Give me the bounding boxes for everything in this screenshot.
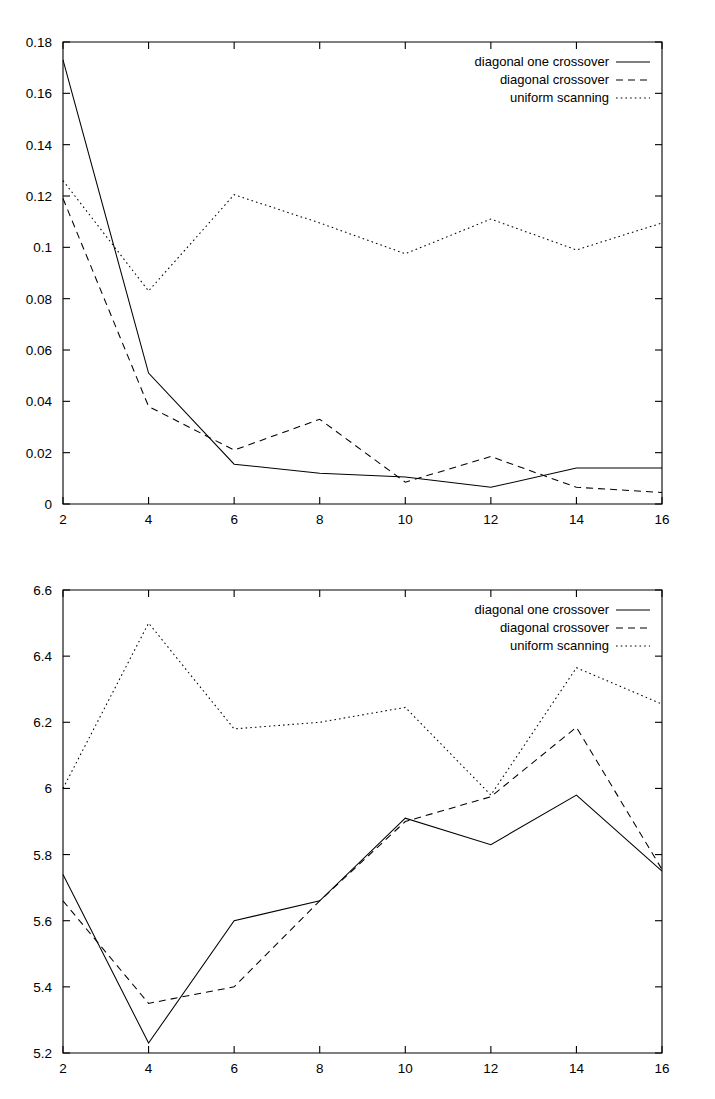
series-line-solid [63, 795, 662, 1043]
line-chart-bottom: 5.25.45.65.866.26.46.6246810121416diagon… [0, 550, 715, 1099]
y-tick-label: 0.12 [26, 189, 52, 204]
x-tick-label: 4 [145, 1061, 153, 1076]
plot-frame [63, 590, 662, 1053]
legend-label: uniform scanning [510, 638, 609, 653]
x-tick-label: 2 [59, 1061, 67, 1076]
y-tick-label: 0.1 [33, 240, 52, 255]
y-tick-label: 0.14 [26, 138, 53, 153]
x-tick-label: 14 [569, 512, 585, 527]
x-tick-label: 16 [654, 1061, 669, 1076]
legend-label: diagonal one crossover [475, 54, 610, 69]
y-tick-label: 5.4 [33, 980, 52, 995]
series-line-dashed [63, 727, 662, 1003]
x-tick-label: 10 [398, 1061, 413, 1076]
x-tick-label: 16 [654, 512, 669, 527]
y-tick-label: 5.6 [33, 914, 52, 929]
legend-label: diagonal one crossover [475, 602, 610, 617]
y-tick-label: 0.06 [26, 343, 52, 358]
y-tick-label: 6.4 [33, 649, 52, 664]
y-tick-label: 0.08 [26, 292, 52, 307]
plot-frame [63, 42, 662, 504]
chart-page: 00.020.040.060.080.10.120.140.160.182468… [0, 0, 715, 1099]
series-line-dashed [63, 199, 662, 493]
y-tick-label: 5.2 [33, 1046, 52, 1061]
x-tick-label: 14 [569, 1061, 585, 1076]
y-tick-label: 6.2 [33, 715, 52, 730]
line-chart-top: 00.020.040.060.080.10.120.140.160.182468… [0, 0, 715, 550]
series-line-solid [63, 60, 662, 487]
x-tick-label: 6 [230, 1061, 238, 1076]
x-tick-label: 8 [316, 512, 324, 527]
y-tick-label: 6.6 [33, 583, 52, 598]
chart-panel-top: 00.020.040.060.080.10.120.140.160.182468… [0, 0, 715, 550]
y-tick-label: 6 [44, 781, 52, 796]
legend-label: uniform scanning [510, 90, 609, 105]
series-line-dotted [63, 181, 662, 291]
y-tick-label: 0 [44, 497, 52, 512]
y-tick-label: 5.8 [33, 848, 52, 863]
x-tick-label: 2 [59, 512, 67, 527]
x-tick-label: 8 [316, 1061, 324, 1076]
x-tick-label: 10 [398, 512, 413, 527]
legend-label: diagonal crossover [500, 620, 610, 635]
x-tick-label: 4 [145, 512, 153, 527]
y-tick-label: 0.02 [26, 446, 52, 461]
x-tick-label: 12 [483, 1061, 498, 1076]
chart-panel-bottom: 5.25.45.65.866.26.46.6246810121416diagon… [0, 550, 715, 1099]
y-tick-label: 0.04 [26, 394, 53, 409]
x-tick-label: 6 [230, 512, 238, 527]
legend-label: diagonal crossover [500, 72, 610, 87]
y-tick-label: 0.18 [26, 35, 52, 50]
x-tick-label: 12 [483, 512, 498, 527]
y-tick-label: 0.16 [26, 86, 52, 101]
